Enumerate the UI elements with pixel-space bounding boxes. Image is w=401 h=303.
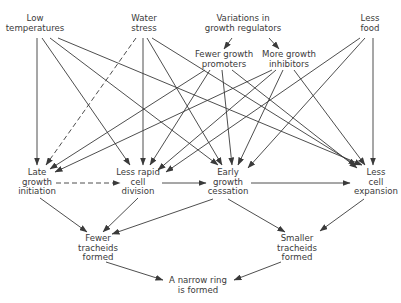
node-label-line: growth regulators (205, 23, 282, 33)
arrow-late-init-to-fewer-tracheids (40, 198, 87, 232)
node-label-line: formed (282, 252, 313, 262)
node-label-line: cessation (208, 186, 249, 196)
node-label-line: growth (213, 177, 243, 187)
node-fewer-promoters: Fewer growthpromoters (195, 49, 253, 69)
node-more-inhibitors: More growthinhibitors (262, 49, 316, 69)
node-label-line: Fewer growth (195, 49, 253, 59)
node-label-line: Variations in (216, 13, 269, 23)
node-label-line: expansion (354, 186, 398, 196)
tree-ring-causal-diagram: LowtemperaturesWaterstressVariations ing… (0, 0, 401, 303)
arrow-fewer-promoters-to-late-init (50, 70, 205, 169)
node-label-line: cell (131, 177, 146, 187)
node-label-line: Low (27, 13, 44, 23)
node-label-line: Fewer (85, 233, 111, 243)
node-narrow-ring: A narrow ringis formed (169, 275, 227, 295)
node-label-line: temperatures (6, 23, 65, 33)
arrow-water-stress-to-less-expansion (152, 38, 356, 165)
node-early-cess: Earlygrowthcessation (208, 167, 249, 196)
node-smaller-tracheids: Smallertracheidsformed (277, 233, 317, 262)
node-label-line: Late (28, 167, 47, 177)
node-label-line: Less (361, 13, 380, 23)
node-label-line: cell (369, 177, 384, 187)
node-label-line: Less rapid (116, 167, 160, 177)
node-variations: Variations ingrowth regulators (205, 13, 282, 33)
node-label-line: inhibitors (269, 59, 310, 69)
node-label-line: division (122, 186, 155, 196)
node-less-rapid: Less rapidcelldivision (116, 167, 160, 196)
arrow-low-temp-to-early-cess (50, 38, 218, 165)
node-label-line: growth (22, 177, 52, 187)
node-label-line: tracheids (78, 243, 118, 253)
node-late-init: Lategrowthinitiation (18, 167, 56, 196)
node-label-line: Less (367, 167, 386, 177)
node-less-expansion: Lesscellexpansion (354, 167, 398, 196)
node-fewer-tracheids: Fewertracheidsformed (78, 233, 118, 262)
arrow-early-cess-to-fewer-tracheids (112, 199, 213, 234)
node-label-line: More growth (262, 49, 316, 59)
node-label-line: food (361, 23, 380, 33)
node-label-line: promoters (202, 59, 247, 69)
arrow-fewer-tracheids-to-narrow-ring (106, 262, 163, 280)
arrow-smaller-tracheids-to-narrow-ring (234, 262, 281, 280)
node-less-food: Lessfood (361, 13, 380, 33)
arrow-less-expansion-to-smaller-tracheids (320, 199, 364, 231)
arrow-water-stress-to-late-init (46, 38, 136, 165)
arrow-fewer-promoters-to-less-rapid (150, 70, 210, 165)
node-label-line: Water (131, 13, 157, 23)
node-label-line: tracheids (277, 243, 317, 253)
node-label-line: initiation (18, 186, 56, 196)
node-water-stress: Waterstress (131, 13, 157, 33)
arrow-variations-to-fewer-promoters (224, 38, 232, 49)
node-label-line: Smaller (281, 233, 314, 243)
arrow-variations-to-more-inhibitors (269, 38, 279, 49)
node-label-line: stress (131, 23, 157, 33)
arrow-more-inhibitors-to-less-expansion (294, 70, 365, 165)
node-low-temp: Lowtemperatures (6, 13, 65, 33)
arrow-early-cess-to-smaller-tracheids (228, 199, 285, 232)
node-label-line: Early (217, 167, 239, 177)
node-label-line: formed (83, 252, 114, 262)
node-label-line: is formed (178, 285, 218, 295)
node-label-line: A narrow ring (169, 275, 227, 285)
arrow-more-inhibitors-to-less-rapid (158, 70, 276, 170)
